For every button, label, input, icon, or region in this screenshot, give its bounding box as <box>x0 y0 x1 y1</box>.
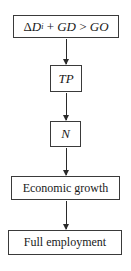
node-condition: ΔDi + GD > GO <box>13 15 119 38</box>
node-n: N <box>50 121 81 147</box>
node-n-label: N <box>61 126 70 142</box>
delta-symbol: Δ <box>23 19 31 35</box>
node-economic-growth: Economic growth <box>11 176 120 200</box>
arrow-growth-to-employment <box>66 201 67 229</box>
node-full-employment: Full employment <box>8 230 122 255</box>
greater-than-operator: > <box>76 19 90 35</box>
var-go: GO <box>90 19 109 35</box>
node-tp-label: TP <box>58 71 73 87</box>
var-d: D <box>32 19 41 35</box>
arrow-n-to-growth <box>66 148 67 175</box>
var-gd: GD <box>57 19 76 35</box>
plus-operator: + <box>43 19 57 35</box>
node-full-employment-label: Full employment <box>24 235 106 250</box>
node-economic-growth-label: Economic growth <box>23 181 109 196</box>
arrow-tp-to-n <box>66 93 67 120</box>
node-tp: TP <box>50 65 82 92</box>
arrow-condition-to-tp <box>66 39 67 64</box>
